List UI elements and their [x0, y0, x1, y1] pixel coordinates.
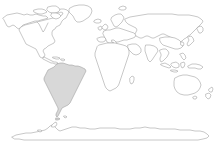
region-canadian-arctic-east[interactable] — [47, 6, 60, 13]
region-iberia[interactable] — [97, 37, 106, 42]
world-map-container: World Map — [0, 0, 221, 149]
region-australia[interactable] — [174, 75, 201, 95]
region-canadian-arctic-west[interactable] — [34, 9, 47, 14]
world-map-svg — [0, 0, 221, 149]
region-tasmania[interactable] — [193, 96, 197, 99]
region-korea[interactable] — [181, 42, 184, 46]
region-new-zealand-south[interactable] — [206, 93, 211, 99]
